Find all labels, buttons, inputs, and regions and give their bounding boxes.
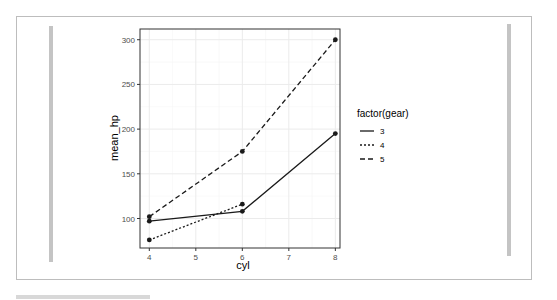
data-point	[333, 37, 338, 42]
data-point	[240, 209, 245, 214]
legend-label: 4	[380, 141, 385, 150]
data-point	[147, 238, 152, 243]
y-tick-label: 250	[122, 80, 136, 89]
legend-title: factor(gear)	[357, 108, 409, 119]
data-point	[147, 214, 152, 219]
data-point	[333, 131, 338, 136]
y-tick-label: 100	[122, 215, 136, 224]
x-tick-label: 8	[333, 253, 338, 262]
legend: factor(gear) 345	[357, 108, 409, 164]
data-point	[147, 219, 152, 224]
y-tick-label: 150	[122, 170, 136, 179]
legend-label: 3	[380, 127, 385, 136]
grid-lines	[140, 29, 340, 248]
x-tick-label: 4	[147, 253, 152, 262]
data-point	[240, 202, 245, 207]
y-axis: 100150200250300	[122, 36, 140, 224]
x-axis-label: cyl	[236, 259, 249, 271]
x-tick-label: 5	[194, 253, 199, 262]
y-tick-label: 200	[122, 125, 136, 134]
x-tick-label: 7	[287, 253, 292, 262]
y-axis-label: mean_hp	[108, 115, 120, 161]
caption-ghost	[16, 295, 150, 299]
data-point	[240, 149, 245, 154]
figure-caption-truncated	[16, 289, 156, 300]
legend-label: 5	[380, 155, 385, 164]
y-tick-label: 300	[122, 36, 136, 45]
line-chart: 100150200250300 45678 cyl mean_hp factor…	[0, 0, 557, 300]
